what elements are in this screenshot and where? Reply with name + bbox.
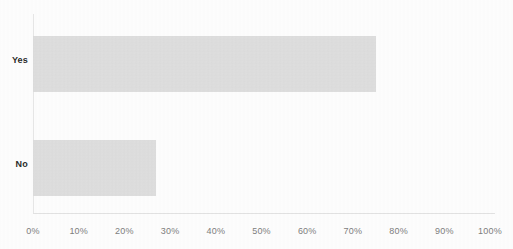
category-label-no: No — [0, 159, 28, 169]
x-tick-label: 100% — [478, 226, 502, 236]
x-tick-label: 0% — [26, 226, 39, 236]
x-tick-label: 30% — [161, 226, 180, 236]
bar-yes — [33, 36, 376, 92]
x-tick-label: 20% — [115, 226, 134, 236]
x-tick-label: 70% — [344, 226, 363, 236]
x-tick-label: 50% — [252, 226, 271, 236]
bar-chart: Yes No 0%10%20%30%40%50%60%70%80%90%100% — [0, 0, 513, 249]
category-label-yes: Yes — [0, 55, 28, 65]
x-tick-label: 60% — [298, 226, 317, 236]
plot-area — [33, 14, 495, 213]
x-axis-tick-labels: 0%10%20%30%40%50%60%70%80%90%100% — [0, 226, 513, 242]
x-tick-label: 90% — [435, 226, 454, 236]
x-tick-label: 10% — [69, 226, 88, 236]
x-tick-label: 80% — [389, 226, 408, 236]
category-axis-line — [33, 213, 495, 214]
x-tick-label: 40% — [206, 226, 225, 236]
bar-no — [33, 140, 156, 196]
